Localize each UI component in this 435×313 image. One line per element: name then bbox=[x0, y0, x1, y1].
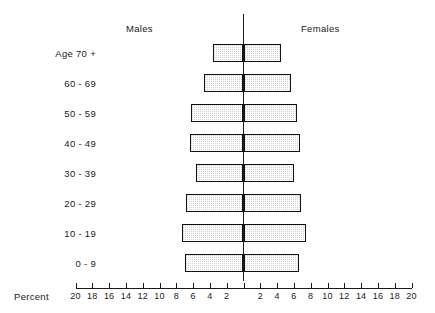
bar-males-40-49 bbox=[190, 134, 244, 152]
age-group-label: 60 - 69 bbox=[0, 78, 96, 89]
x-axis-tick bbox=[361, 283, 362, 288]
x-axis-tick bbox=[328, 283, 329, 288]
x-axis-tick bbox=[412, 283, 413, 288]
x-axis-tick bbox=[311, 283, 312, 288]
bar-females-20-29 bbox=[244, 194, 302, 212]
age-group-label-wrap: 50 - 59 bbox=[0, 108, 96, 122]
x-axis-title: Percent bbox=[14, 291, 49, 302]
x-axis-tick-label: 12 bbox=[339, 291, 349, 301]
bar-females-0-9 bbox=[244, 254, 299, 272]
bar-males-0-9 bbox=[185, 254, 244, 272]
x-axis-tick-label: 16 bbox=[104, 291, 114, 301]
age-group-label: 0 - 9 bbox=[0, 258, 96, 269]
x-axis-tick-label: 18 bbox=[389, 291, 399, 301]
age-group-label: 20 - 29 bbox=[0, 198, 96, 209]
x-axis-tick-label: 2 bbox=[224, 291, 229, 301]
age-group-label: Age 70 + bbox=[0, 48, 96, 59]
x-axis-tick-label: 14 bbox=[356, 291, 366, 301]
x-axis-tick-label: 14 bbox=[121, 291, 131, 301]
x-axis-tick bbox=[294, 283, 295, 288]
age-group-label-wrap: 20 - 29 bbox=[0, 198, 96, 212]
x-axis-tick bbox=[92, 283, 93, 288]
bar-males-age70+ bbox=[213, 44, 243, 62]
x-axis-tick-label: 12 bbox=[137, 291, 147, 301]
population-pyramid-chart: Males Females Age 70 +60 - 6950 - 5940 -… bbox=[0, 0, 435, 313]
x-axis-tick bbox=[193, 283, 194, 288]
x-axis-tick bbox=[143, 283, 144, 288]
x-axis-tick-label: 6 bbox=[291, 291, 296, 301]
bar-males-30-39 bbox=[196, 164, 244, 182]
plot-area: Age 70 +60 - 6950 - 5940 - 4930 - 3920 -… bbox=[0, 0, 435, 313]
bar-males-50-59 bbox=[191, 104, 244, 122]
x-axis-tick-label: 2 bbox=[258, 291, 263, 301]
age-group-label: 40 - 49 bbox=[0, 138, 96, 149]
x-axis-tick-label: 8 bbox=[174, 291, 179, 301]
x-axis-tick-label: 20 bbox=[406, 291, 416, 301]
x-axis-tick-label: 4 bbox=[207, 291, 212, 301]
x-axis-line bbox=[76, 288, 412, 289]
x-axis-tick bbox=[160, 283, 161, 288]
age-group-label-wrap: 30 - 39 bbox=[0, 168, 96, 182]
age-group-label: 10 - 19 bbox=[0, 228, 96, 239]
x-axis-tick-label: 4 bbox=[274, 291, 279, 301]
x-axis-tick bbox=[344, 283, 345, 288]
bar-females-10-19 bbox=[244, 224, 306, 242]
x-axis-tick bbox=[378, 283, 379, 288]
x-axis-tick bbox=[227, 283, 228, 288]
age-group-label-wrap: Age 70 + bbox=[0, 48, 96, 62]
bar-males-20-29 bbox=[186, 194, 244, 212]
age-group-label: 50 - 59 bbox=[0, 108, 96, 119]
bar-females-50-59 bbox=[244, 104, 298, 122]
x-axis-tick bbox=[244, 283, 245, 288]
x-axis-tick-label: 16 bbox=[373, 291, 383, 301]
x-axis-tick bbox=[126, 283, 127, 288]
age-group-label-wrap: 40 - 49 bbox=[0, 138, 96, 152]
x-axis-tick-label: 8 bbox=[308, 291, 313, 301]
x-axis-tick-label: 10 bbox=[322, 291, 332, 301]
x-axis-tick-label: 20 bbox=[70, 291, 80, 301]
age-group-label-wrap: 60 - 69 bbox=[0, 78, 96, 92]
x-axis-tick-label: 18 bbox=[87, 291, 97, 301]
bar-females-40-49 bbox=[244, 134, 300, 152]
x-axis-tick-label: 10 bbox=[154, 291, 164, 301]
x-axis-tick bbox=[277, 283, 278, 288]
x-axis-tick bbox=[109, 283, 110, 288]
x-axis-tick bbox=[395, 283, 396, 288]
x-axis-tick bbox=[210, 283, 211, 288]
age-group-label: 30 - 39 bbox=[0, 168, 96, 179]
age-group-label-wrap: 10 - 19 bbox=[0, 228, 96, 242]
bar-females-30-39 bbox=[244, 164, 294, 182]
bar-males-10-19 bbox=[182, 224, 243, 242]
bar-males-60-69 bbox=[204, 74, 243, 92]
bar-females-age70+ bbox=[244, 44, 282, 62]
x-axis-tick bbox=[260, 283, 261, 288]
x-axis-tick-label: 6 bbox=[190, 291, 195, 301]
age-group-label-wrap: 0 - 9 bbox=[0, 258, 96, 272]
bar-females-60-69 bbox=[244, 74, 291, 92]
x-axis-tick bbox=[76, 283, 77, 288]
x-axis-tick bbox=[176, 283, 177, 288]
